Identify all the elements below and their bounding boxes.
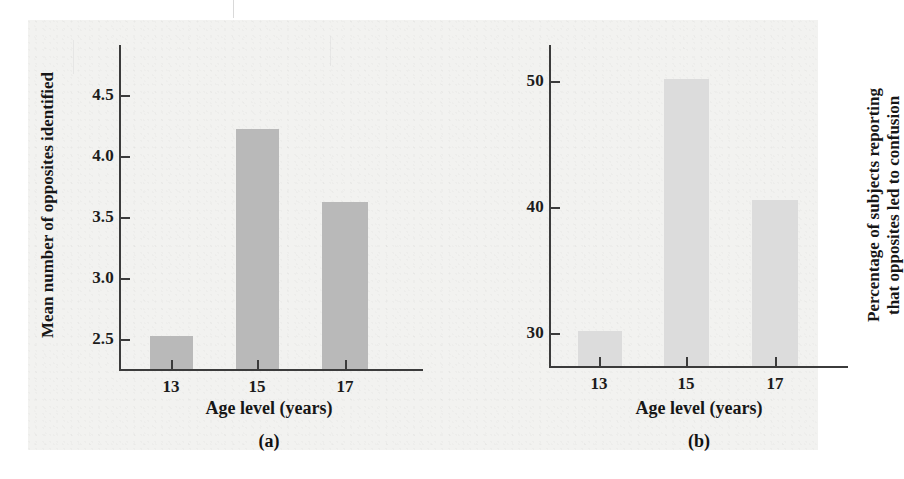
panel-a-x-axis-label: Age level (years) [119,398,419,419]
panel-b-bar-17 [752,200,798,366]
panel-b-y-axis-label-line2: that opposites led to confusion [884,95,903,314]
panel-b-ytick-50: 50 [551,81,560,83]
panel-a: Mean number of opposites identified 2.5 … [0,0,425,479]
panel-a-xtick-17: 17 [345,360,347,369]
panel-b-xtick-17: 17 [775,357,777,366]
panel-a-ytick-label-2.5: 2.5 [92,329,114,349]
panel-b-plot-area: 30 40 50 13 15 17 [549,45,834,368]
panel-a-ytick-2.5: 2.5 [121,339,130,341]
panel-a-ytick-3.5: 3.5 [121,217,130,219]
panel-a-xtick-label-15: 15 [249,377,266,397]
panel-b-ytick-40: 40 [551,207,560,209]
panel-a-xtick-13: 13 [171,360,173,369]
panel-a-xtick-label-13: 13 [163,377,180,397]
panel-b-xtick-13: 13 [599,357,601,366]
panel-a-ytick-4.0: 4.0 [121,156,130,158]
panel-b-bar-15 [664,79,709,366]
panel-a-y-axis-line [119,45,121,371]
panel-b-ytick-label-50: 50 [527,71,544,91]
panel-a-caption: (a) [119,431,419,452]
panel-a-ytick-label-3.5: 3.5 [92,207,114,227]
panel-a-plot-area: 2.5 3.0 3.5 4.0 4.5 13 15 [119,45,409,371]
panel-b: Percentage of subjects reporting that op… [420,0,845,479]
panel-b-xtick-label-13: 13 [591,374,608,394]
panel-b-xtick-label-17: 17 [767,374,784,394]
panel-a-ytick-4.5: 4.5 [121,95,130,97]
panel-b-caption: (b) [549,431,849,452]
panel-a-xtick-15: 15 [257,360,259,369]
panel-b-ytick-30: 30 [551,333,560,335]
panel-b-x-axis-line [549,366,848,368]
panel-b-ytick-label-40: 40 [527,197,544,217]
panel-a-ytick-label-4.0: 4.0 [92,146,114,166]
panel-a-ytick-label-4.5: 4.5 [92,85,114,105]
panel-a-x-axis-line [119,369,423,371]
panel-a-ytick-label-3.0: 3.0 [92,268,114,288]
panel-b-x-axis-label: Age level (years) [549,398,849,419]
panel-b-xtick-15: 15 [686,357,688,366]
panel-a-ytick-3.0: 3.0 [121,278,130,280]
panel-b-y-axis-label-line1: Percentage of subjects reporting [864,88,883,322]
panel-a-bar-15 [236,129,279,369]
panel-b-xtick-label-15: 15 [678,374,695,394]
panel-a-xtick-label-17: 17 [337,377,354,397]
panel-a-y-axis-label: Mean number of opposites identified [38,40,58,370]
panel-b-ytick-label-30: 30 [527,323,544,343]
panel-b-y-axis-label: Percentage of subjects reporting that op… [864,55,904,355]
panel-a-bar-17 [322,202,368,369]
